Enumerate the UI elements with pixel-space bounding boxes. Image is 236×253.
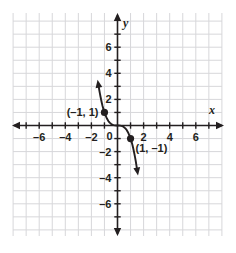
- y-axis-label: y: [121, 16, 129, 30]
- point-label: (1, –1): [136, 142, 168, 154]
- y-tick-label: –2: [99, 146, 111, 158]
- x-tick-label: 0: [106, 130, 112, 142]
- plotted-point: [127, 135, 134, 142]
- y-tick-label: 6: [105, 41, 111, 53]
- coordinate-plane-chart: –6–4–20246642–2–4–6 (–1, 1)(1, –1) x y: [0, 0, 236, 253]
- x-tick-label: –6: [33, 131, 45, 143]
- x-tick-label: –2: [85, 131, 97, 143]
- plotted-point: [101, 109, 108, 116]
- y-tick-label: 4: [105, 67, 112, 79]
- x-tick-label: 4: [167, 131, 174, 143]
- x-axis-label: x: [208, 103, 215, 117]
- x-tick-label: –4: [59, 131, 72, 143]
- y-tick-label: 2: [105, 93, 111, 105]
- point-label: (–1, 1): [67, 106, 99, 118]
- y-tick-label: –4: [99, 172, 112, 184]
- y-tick-label: –6: [99, 198, 111, 210]
- x-tick-label: 6: [193, 131, 199, 143]
- graph-figure: –6–4–20246642–2–4–6 (–1, 1)(1, –1) x y: [0, 0, 236, 253]
